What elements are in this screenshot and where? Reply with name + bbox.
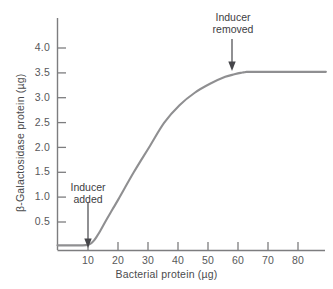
arrow-inducer-added — [84, 202, 91, 248]
arrow-inducer-removed — [228, 39, 235, 71]
x-tick-label-70: 70 — [255, 254, 281, 266]
annotation-inducer-removed: Inducer removed — [197, 11, 269, 35]
annotation-inducer-removed-line2: removed — [197, 23, 269, 35]
x-tick-label-50: 50 — [195, 254, 221, 266]
annotation-inducer-removed-line1: Inducer — [197, 11, 269, 23]
y-tick-label-0.5: 0.5 — [20, 215, 50, 227]
annotation-inducer-added-line1: Inducer — [58, 181, 118, 193]
x-tick-label-60: 60 — [225, 254, 251, 266]
x-axis-title: Bacterial protein (µg) — [0, 268, 333, 280]
annotation-inducer-added-line2: added — [58, 193, 118, 205]
arrow-inducer-removed-head — [228, 62, 235, 72]
x-axis-ticks — [88, 242, 298, 251]
x-tick-label-80: 80 — [285, 254, 311, 266]
y-tick-label-4.0: 4.0 — [20, 41, 50, 53]
x-tick-label-40: 40 — [165, 254, 191, 266]
x-tick-label-20: 20 — [105, 254, 131, 266]
x-tick-label-30: 30 — [135, 254, 161, 266]
chart-figure: 4.0 3.5 3.0 2.5 2.0 1.5 1.0 0.5 10 20 30… — [0, 0, 333, 289]
annotation-inducer-added: Inducer added — [58, 181, 118, 205]
data-curve-beta-galactosidase — [58, 72, 326, 246]
x-tick-label-10: 10 — [75, 254, 101, 266]
y-axis-title: β-Galactosidase protein (µg) — [14, 74, 26, 213]
